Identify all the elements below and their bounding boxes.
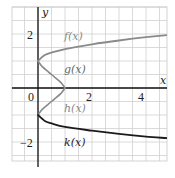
label-k: k(x)	[64, 136, 85, 149]
tick-label-x-4: 4	[138, 90, 144, 104]
curve-f	[38, 35, 168, 61]
tick-label-x-0: 0	[28, 90, 34, 104]
grid	[12, 7, 167, 161]
x-axis-label: x	[160, 74, 167, 87]
tick-label-y-neg2: −2	[20, 136, 33, 150]
function-graph: y x 0 2 4 2 −2 f(x) g(x) h(x) k(x)	[0, 0, 175, 178]
label-h: h(x)	[64, 102, 86, 115]
tick-label-x-2: 2	[86, 90, 92, 104]
label-g: g(x)	[64, 63, 86, 76]
label-f: f(x)	[63, 30, 83, 43]
tick-label-y-2: 2	[27, 28, 33, 42]
y-axis-label: y	[41, 6, 49, 19]
plot-border	[12, 7, 167, 161]
curve-k	[38, 115, 168, 138]
